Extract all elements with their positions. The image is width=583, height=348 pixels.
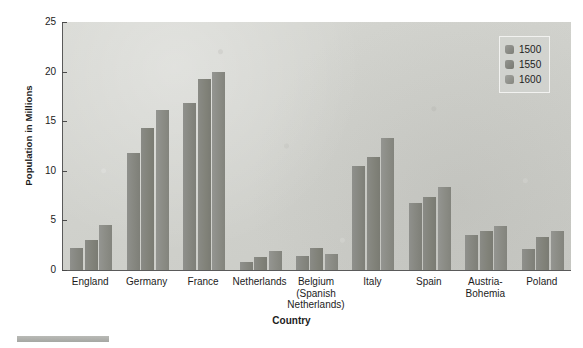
y-tick-label: 20 bbox=[36, 67, 56, 77]
bar-group bbox=[289, 248, 345, 270]
y-tick-mark bbox=[62, 22, 67, 23]
bar bbox=[141, 128, 154, 270]
bar bbox=[438, 187, 451, 270]
legend-swatch-icon bbox=[505, 75, 514, 84]
bar-group bbox=[402, 187, 458, 270]
bar bbox=[381, 138, 394, 270]
bar bbox=[325, 254, 338, 270]
y-tick-mark bbox=[62, 220, 67, 221]
y-axis-tick-labels: 0510152025 bbox=[30, 0, 56, 348]
legend-item: 1550 bbox=[505, 57, 541, 72]
y-tick-label: 15 bbox=[36, 116, 56, 126]
bar bbox=[352, 166, 365, 270]
x-tick-label: Poland bbox=[502, 276, 582, 288]
bar bbox=[183, 103, 196, 270]
bar bbox=[367, 157, 380, 270]
bar bbox=[269, 251, 282, 270]
bar-group bbox=[176, 72, 232, 270]
bar bbox=[296, 256, 309, 270]
y-tick-mark bbox=[62, 270, 67, 271]
y-tick-label: 0 bbox=[36, 265, 56, 275]
bar-group bbox=[63, 225, 119, 270]
bar bbox=[254, 257, 267, 270]
legend-label: 1550 bbox=[519, 60, 541, 70]
y-tick-label: 5 bbox=[36, 215, 56, 225]
bar bbox=[156, 110, 169, 270]
bar bbox=[85, 240, 98, 270]
bar bbox=[465, 235, 478, 270]
y-tick-label: 25 bbox=[36, 17, 56, 27]
plot-area bbox=[62, 22, 571, 271]
legend-item: 1500 bbox=[505, 42, 541, 57]
bar-group bbox=[345, 138, 401, 270]
y-tick-mark bbox=[62, 171, 67, 172]
legend-swatch-icon bbox=[505, 60, 514, 69]
bar bbox=[536, 237, 549, 270]
legend-item: 1600 bbox=[505, 72, 541, 87]
bar bbox=[212, 72, 225, 270]
y-tick-mark bbox=[62, 121, 67, 122]
legend-swatch-icon bbox=[505, 45, 514, 54]
bar bbox=[99, 225, 112, 270]
bar bbox=[423, 197, 436, 270]
bar bbox=[198, 79, 211, 270]
bar bbox=[409, 203, 422, 270]
y-tick-label: 10 bbox=[36, 166, 56, 176]
bar-group bbox=[232, 251, 288, 270]
bar bbox=[240, 262, 253, 270]
bar-group bbox=[515, 231, 571, 270]
x-axis-title: Country bbox=[0, 315, 583, 326]
bar-chart-figure: Population in Millions 0510152025 Englan… bbox=[0, 0, 583, 348]
y-tick-mark bbox=[62, 72, 67, 73]
legend-label: 1600 bbox=[519, 75, 541, 85]
bar bbox=[551, 231, 564, 270]
bar bbox=[310, 248, 323, 270]
bar bbox=[480, 231, 493, 270]
bar bbox=[522, 249, 535, 270]
legend: 150015501600 bbox=[499, 36, 550, 93]
bar bbox=[494, 226, 507, 270]
bottom-rule bbox=[17, 336, 109, 342]
bar-group bbox=[119, 110, 175, 270]
bar bbox=[127, 153, 140, 270]
legend-label: 1500 bbox=[519, 45, 541, 55]
bar-group bbox=[458, 226, 514, 270]
bar bbox=[70, 248, 83, 270]
